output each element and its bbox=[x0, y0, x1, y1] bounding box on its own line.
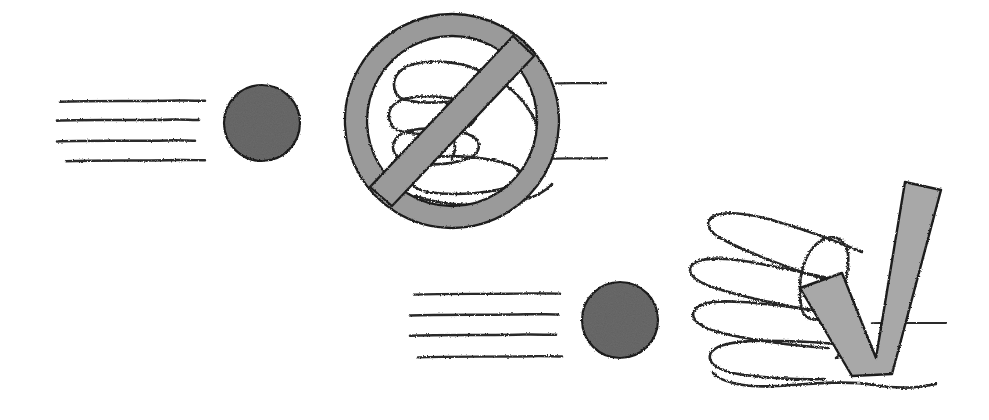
lower-dot bbox=[582, 282, 658, 358]
speed-line bbox=[66, 160, 205, 161]
dot-shape bbox=[224, 85, 300, 161]
speed-line bbox=[418, 356, 562, 357]
speed-line bbox=[410, 335, 556, 336]
illustration-svg bbox=[0, 0, 989, 420]
speed-line bbox=[410, 314, 558, 315]
illustration-canvas bbox=[0, 0, 989, 420]
speed-line bbox=[57, 120, 199, 121]
speed-line bbox=[57, 140, 195, 141]
speed-line bbox=[414, 293, 560, 294]
upper-dot bbox=[224, 85, 300, 161]
speed-line bbox=[60, 101, 205, 102]
dot-shape bbox=[582, 282, 658, 358]
